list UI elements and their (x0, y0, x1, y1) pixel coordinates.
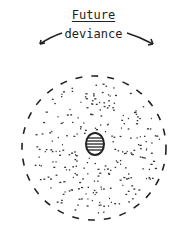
left-arrow-icon (40, 33, 62, 44)
striped-oval-icon (86, 133, 104, 155)
diagram-graphic (0, 0, 187, 241)
right-arrow-icon (127, 33, 153, 45)
